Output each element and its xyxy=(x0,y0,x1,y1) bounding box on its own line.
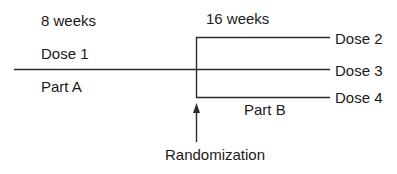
part-a-duration-label: 8 weeks xyxy=(41,12,96,29)
part-b-duration-label: 16 weeks xyxy=(206,10,269,27)
dose-4-label: Dose 4 xyxy=(335,89,383,106)
part-a-label: Part A xyxy=(41,78,82,95)
part-b-label: Part B xyxy=(244,101,286,118)
randomization-arrow-head-icon xyxy=(193,103,200,113)
randomization-label: Randomization xyxy=(165,146,265,163)
dose-2-label: Dose 2 xyxy=(335,30,383,47)
dose-3-label: Dose 3 xyxy=(335,62,383,79)
dose-1-label: Dose 1 xyxy=(41,45,89,62)
